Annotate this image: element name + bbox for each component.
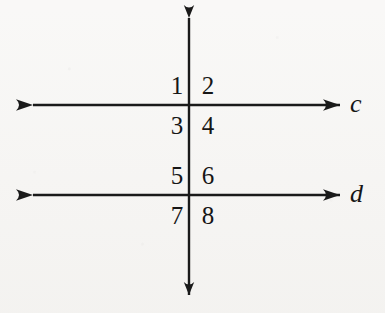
angle-label-4: 4 xyxy=(197,113,219,138)
diagram-canvas xyxy=(0,0,385,313)
line-label-c: c xyxy=(350,91,376,117)
line-label-d: d xyxy=(350,181,376,207)
angle-label-6: 6 xyxy=(197,163,219,188)
angle-label-7: 7 xyxy=(166,203,188,228)
angle-label-1: 1 xyxy=(166,73,188,98)
angle-label-2: 2 xyxy=(197,73,219,98)
angle-label-8: 8 xyxy=(197,203,219,228)
angle-label-3: 3 xyxy=(166,113,188,138)
geometry-figure: 1 2 3 4 5 6 7 8 c d xyxy=(0,0,385,313)
angle-label-5: 5 xyxy=(166,163,188,188)
